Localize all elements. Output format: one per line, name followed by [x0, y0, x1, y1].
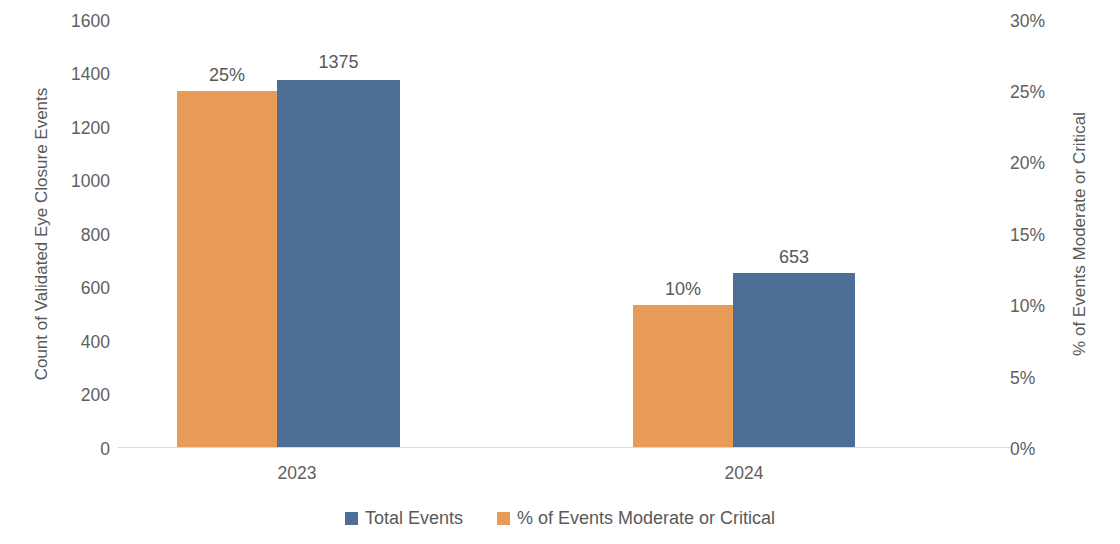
y-tick-left-1000: 1000: [32, 173, 110, 191]
y-axis-right-ticks: 30% 25% 20% 15% 10% 5% 0%: [1010, 0, 1090, 544]
legend: Total Events % of Events Moderate or Cri…: [0, 509, 1120, 527]
bar-2024-total-events[interactable]: [733, 273, 855, 447]
legend-item-total-events[interactable]: Total Events: [345, 509, 463, 527]
y-tick-right-30: 30%: [1010, 13, 1090, 31]
legend-label-percent-moderate-critical: % of Events Moderate or Critical: [517, 509, 775, 527]
legend-swatch-orange-icon: [497, 512, 510, 525]
y-tick-left-200: 200: [32, 387, 110, 405]
y-tick-left-0: 0: [32, 441, 110, 459]
y-tick-right-25: 25%: [1010, 84, 1090, 102]
y-tick-left-1600: 1600: [32, 13, 110, 31]
y-tick-right-15: 15%: [1010, 227, 1090, 245]
y-tick-left-1400: 1400: [32, 66, 110, 84]
y-tick-left-1200: 1200: [32, 120, 110, 138]
y-tick-right-0: 0%: [1010, 441, 1090, 459]
y-tick-right-5: 5%: [1010, 370, 1090, 388]
bar-2023-percent-moderate-critical[interactable]: [177, 91, 277, 447]
bar-label-2024-total: 653: [733, 248, 855, 266]
bar-2024-percent-moderate-critical[interactable]: [633, 305, 733, 447]
y-tick-left-800: 800: [32, 227, 110, 245]
y-tick-left-600: 600: [32, 280, 110, 298]
x-category-label-2023: 2023: [237, 463, 357, 484]
y-tick-right-20: 20%: [1010, 155, 1090, 173]
y-tick-left-400: 400: [32, 334, 110, 352]
plot-area: 25% 1375 10% 653: [118, 20, 1008, 447]
bar-chart: Count of Validated Eye Closure Events % …: [0, 0, 1120, 544]
legend-swatch-blue-icon: [345, 512, 358, 525]
y-tick-right-10: 10%: [1010, 298, 1090, 316]
bar-label-2023-percent: 25%: [177, 66, 277, 84]
bar-label-2023-total: 1375: [277, 53, 400, 71]
legend-item-percent-moderate-critical[interactable]: % of Events Moderate or Critical: [497, 509, 775, 527]
y-axis-left-ticks: 1600 1400 1200 1000 800 600 400 200 0: [32, 0, 110, 544]
legend-label-total-events: Total Events: [365, 509, 463, 527]
bar-label-2024-percent: 10%: [633, 280, 733, 298]
x-category-label-2024: 2024: [684, 463, 804, 484]
bar-2023-total-events[interactable]: [277, 80, 400, 447]
category-axis-line: [118, 447, 1010, 448]
